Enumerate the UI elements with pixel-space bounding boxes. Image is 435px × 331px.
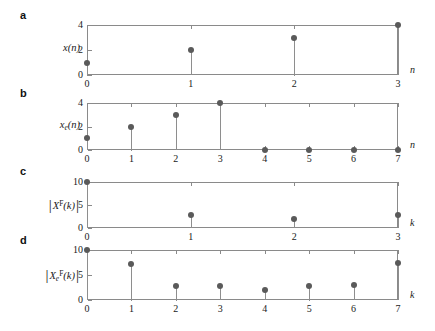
x-tick-label: 2 — [168, 304, 184, 314]
stem-line — [398, 263, 399, 300]
y-tick-mark — [88, 300, 92, 301]
x-tick-label: 0 — [79, 304, 95, 314]
x-tick-label: 7 — [390, 304, 406, 314]
x-tick-mark-top — [131, 250, 132, 254]
x-axis-label-d: k — [410, 290, 414, 300]
stem-marker — [351, 282, 357, 288]
x-tick-mark-top — [354, 250, 355, 254]
panel-letter-d: d — [20, 235, 27, 246]
y-tick-mark — [88, 275, 92, 276]
panel-d: d|XeF(k)|051001234567k — [0, 0, 435, 331]
stem-marker — [262, 287, 268, 293]
stem-line — [87, 250, 88, 300]
x-tick-mark-top — [220, 250, 221, 254]
y-axis-label-d: |XeF(k)| — [44, 268, 80, 283]
stem-marker — [395, 260, 401, 266]
x-tick-mark-top — [309, 250, 310, 254]
y-tick-label: 10 — [73, 245, 83, 255]
x-tick-label: 1 — [123, 304, 139, 314]
x-tick-label: 3 — [212, 304, 228, 314]
stem-plot-figure: ax(n)0240123nbxe(n)02401234567nc|XF(k)|0… — [0, 0, 435, 331]
x-tick-mark-top — [398, 250, 399, 254]
x-tick-mark-top — [176, 250, 177, 254]
y-tick-label: 5 — [78, 270, 83, 280]
stem-marker — [306, 283, 312, 289]
stem-marker — [84, 247, 90, 253]
x-tick-mark-top — [265, 250, 266, 254]
x-tick-label: 5 — [301, 304, 317, 314]
x-tick-label: 6 — [346, 304, 362, 314]
plot-frame-d — [87, 250, 398, 300]
stem-line — [131, 264, 132, 301]
stem-marker — [128, 261, 134, 267]
stem-marker — [173, 283, 179, 289]
x-tick-label: 4 — [257, 304, 273, 314]
